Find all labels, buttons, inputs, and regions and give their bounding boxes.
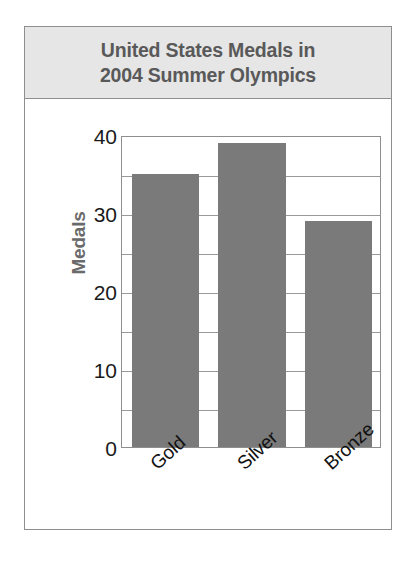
y-tick-label: 0 [71,438,117,459]
y-tick-label: 40 [71,126,117,147]
chart-figure: United States Medals in 2004 Summer Olym… [24,26,392,530]
plot-area [121,136,381,448]
y-tick-label: 10 [71,360,117,381]
bar-bronze [305,221,373,447]
bar-silver [218,143,286,447]
chart-title-line-1: United States Medals in [101,38,315,63]
x-axis-tick-labels: GoldSilverBronze [121,448,381,528]
bar-gold [132,174,200,447]
chart-title-line-2: 2004 Summer Olympics [100,63,316,88]
y-tick-label: 30 [71,204,117,225]
y-axis-tick-labels: 010203040 [65,136,117,448]
chart-title-band: United States Medals in 2004 Summer Olym… [25,27,391,99]
y-tick-label: 20 [71,282,117,303]
